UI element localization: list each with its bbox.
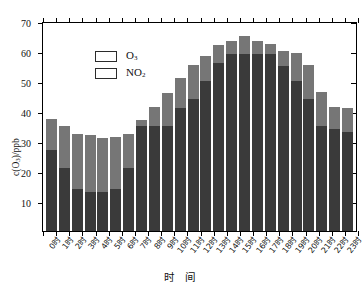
bar-segment-no2 <box>59 126 70 168</box>
bar-segment-o3 <box>316 126 327 231</box>
bar-segment-no2 <box>265 44 276 55</box>
bar-segment-no2 <box>252 41 263 55</box>
bar-segment-no2 <box>123 134 134 169</box>
x-tick <box>358 231 359 236</box>
bar-segment-no2 <box>213 45 224 63</box>
y-axis-title: c(O3)/ppb <box>0 86 14 178</box>
bar-column[interactable] <box>59 23 70 231</box>
bar-segment-no2 <box>175 78 186 108</box>
bar-column[interactable] <box>149 23 160 231</box>
y-tick-label: 30 <box>21 139 31 149</box>
bar-column[interactable] <box>200 23 211 231</box>
y-tick-label: 20 <box>21 169 31 179</box>
bar-column[interactable] <box>72 23 83 231</box>
bar-column[interactable] <box>97 23 108 231</box>
y-tick-label: 70 <box>21 19 31 29</box>
y-tick-label: 60 <box>21 49 31 59</box>
bar-segment-o3 <box>59 168 70 231</box>
bar-segment-o3 <box>342 132 353 231</box>
y-axis-title-open: (O <box>11 162 21 172</box>
bar-segment-no2 <box>188 65 199 100</box>
y-axis-title-sub: 3 <box>14 158 22 162</box>
bar-column[interactable] <box>239 23 250 231</box>
bar-segment-o3 <box>278 66 289 231</box>
bar-segment-o3 <box>239 54 250 231</box>
bar-segment-no2 <box>162 93 173 126</box>
bar-segment-o3 <box>46 150 57 231</box>
bar-segment-no2 <box>291 53 302 82</box>
bar-segment-o3 <box>123 168 134 231</box>
bar-segment-no2 <box>149 107 160 127</box>
y-tick-label: 10 <box>21 199 31 209</box>
y-tick-label: 40 <box>21 109 31 119</box>
bar-column[interactable] <box>329 23 340 231</box>
bar-segment-o3 <box>252 54 263 231</box>
bar-segment-o3 <box>329 129 340 231</box>
bar-segment-no2 <box>316 92 327 127</box>
bar-segment-o3 <box>175 108 186 231</box>
x-axis-title: 时 间 <box>0 269 363 284</box>
bar-segment-no2 <box>110 137 121 190</box>
bar-segment-no2 <box>278 51 289 66</box>
bar-column[interactable] <box>85 23 96 231</box>
bar-column[interactable] <box>175 23 186 231</box>
bar-segment-no2 <box>46 119 57 151</box>
bar-column[interactable] <box>123 23 134 231</box>
y-axis-title-close: )/ppb <box>11 138 21 158</box>
bar-segment-no2 <box>200 56 211 82</box>
x-tick-mirror <box>358 18 359 23</box>
bar-segment-no2 <box>329 107 340 130</box>
bar-segment-o3 <box>85 192 96 231</box>
bar-column[interactable] <box>136 23 147 231</box>
y-tick-label: 50 <box>21 79 31 89</box>
bar-segment-o3 <box>149 126 160 231</box>
bar-segment-o3 <box>110 189 121 231</box>
bar-segment-o3 <box>303 99 314 231</box>
bar-column[interactable] <box>226 23 237 231</box>
bar-column[interactable] <box>265 23 276 231</box>
bar-segment-no2 <box>72 134 83 190</box>
bar-column[interactable] <box>213 23 224 231</box>
bar-segment-no2 <box>85 135 96 192</box>
bar-column[interactable] <box>342 23 353 231</box>
bar-segment-no2 <box>97 138 108 192</box>
bar-column[interactable] <box>291 23 302 231</box>
bar-segment-o3 <box>162 126 173 231</box>
bar-segment-no2 <box>303 65 314 100</box>
chart-container: c(O3)/ppb O3 NO2 10203040506070 0时1时2时3时… <box>0 0 363 289</box>
bar-column[interactable] <box>110 23 121 231</box>
bar-segment-no2 <box>239 36 250 54</box>
bar-segment-no2 <box>342 108 353 132</box>
bar-segment-o3 <box>188 99 199 231</box>
bar-series-layer <box>43 23 356 231</box>
bar-segment-o3 <box>226 54 237 231</box>
bar-segment-o3 <box>136 126 147 231</box>
bar-column[interactable] <box>316 23 327 231</box>
bar-segment-o3 <box>265 54 276 231</box>
plot-area: O3 NO2 10203040506070 <box>42 22 357 232</box>
bar-segment-o3 <box>97 192 108 231</box>
y-axis-title-prefix: c <box>11 172 21 176</box>
x-axis-tick-labels: 0时1时2时3时4时5时6时7时8时9时10时11时12时13时14时15时16… <box>42 234 357 268</box>
bar-segment-o3 <box>213 63 224 231</box>
bar-column[interactable] <box>162 23 173 231</box>
bar-segment-o3 <box>72 189 83 231</box>
bar-column[interactable] <box>303 23 314 231</box>
bar-column[interactable] <box>188 23 199 231</box>
bar-column[interactable] <box>46 23 57 231</box>
bar-segment-o3 <box>291 81 302 231</box>
bar-column[interactable] <box>278 23 289 231</box>
bar-segment-no2 <box>226 41 237 55</box>
bar-column[interactable] <box>252 23 263 231</box>
bar-segment-o3 <box>200 81 211 231</box>
